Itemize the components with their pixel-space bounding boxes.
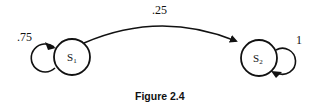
transition-label-s2-s2: 1 [296,33,302,47]
arrowhead-icon [45,42,56,50]
self-loop-s1 [31,42,56,72]
transition-label-s1-s2: .25 [152,3,167,17]
loop-arc-s2 [276,48,296,74]
state-s2: S2 [241,40,277,76]
state-s1: S1 [54,39,90,75]
figure-caption: Figure 2.4 [135,90,185,102]
transition-label-s1-s1: .75 [17,30,32,44]
transition-arc-s1-s2 [84,26,236,43]
state-diagram: .75 S1 .25 S2 1 Figure 2.4 [0,0,315,103]
